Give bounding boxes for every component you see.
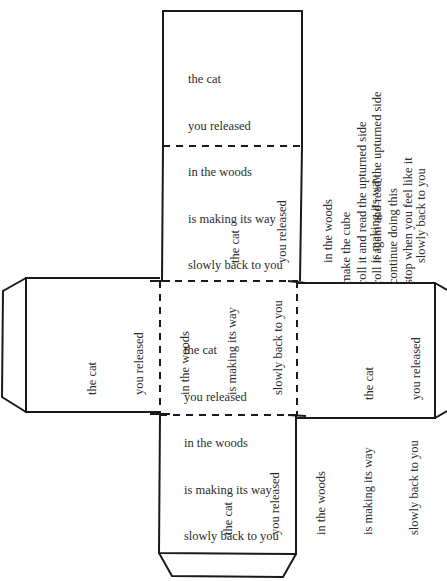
poem-line: you released bbox=[188, 119, 283, 135]
instruction-line: continue doing this bbox=[386, 91, 402, 284]
poem-line: you released bbox=[132, 300, 148, 395]
instruction-line: stop when you feel like it bbox=[401, 91, 417, 284]
poem-line: the cat bbox=[85, 300, 101, 395]
instructions-text: make the cube roll it and read the uptur… bbox=[339, 91, 417, 284]
poem-face-bottom: the cat you released in the woods is mak… bbox=[190, 440, 438, 535]
poem-line: you released bbox=[409, 305, 425, 400]
poem-line: the cat bbox=[221, 440, 237, 535]
poem-line: slowly back to you bbox=[407, 440, 423, 535]
poem-line: you released bbox=[268, 440, 284, 535]
left-tab bbox=[2, 278, 26, 412]
poem-line: in the woods bbox=[321, 168, 337, 263]
right-tab-bottom bbox=[435, 411, 447, 418]
instruction-line: roll it again and read the upturned side bbox=[370, 91, 386, 284]
right-tab bbox=[435, 283, 447, 290]
poem-line: slowly back to you bbox=[271, 300, 287, 395]
poem-line: is making its way bbox=[361, 440, 377, 535]
poem-face-left: the cat you released in the woods is mak… bbox=[54, 300, 302, 395]
instruction-line: make the cube bbox=[339, 91, 355, 284]
poem-line: you released bbox=[275, 168, 291, 263]
poem-line: the cat bbox=[188, 72, 283, 88]
poem-face-right: the cat you released in the woods is mak… bbox=[331, 305, 447, 400]
poem-line: the cat bbox=[228, 168, 244, 263]
poem-line: the cat bbox=[362, 305, 378, 400]
poem-line: in the woods bbox=[178, 300, 194, 395]
poem-line: in the woods bbox=[314, 440, 330, 535]
upper-middle-left-edge bbox=[162, 146, 163, 281]
instruction-line: roll it and read the upturned side bbox=[355, 91, 371, 284]
poem-line: is making its way bbox=[225, 300, 241, 395]
